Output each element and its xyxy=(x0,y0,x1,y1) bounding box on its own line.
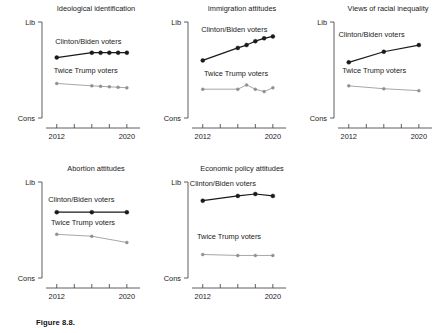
data-point xyxy=(55,233,58,236)
y-axis-line xyxy=(38,182,42,278)
y-axis-top-label: Lib xyxy=(25,178,35,187)
series-label: Clinton/Biden voters xyxy=(338,30,404,39)
data-point xyxy=(271,254,274,257)
data-point xyxy=(245,83,248,86)
series-label: Twice Trump voters xyxy=(342,66,406,75)
data-point xyxy=(107,51,111,55)
data-point xyxy=(55,210,59,214)
y-axis-bottom-label: Cons xyxy=(18,114,36,123)
panel-title: Views of racial inequality xyxy=(348,4,429,13)
data-point xyxy=(55,56,59,60)
data-point xyxy=(201,88,204,91)
y-axis-bottom-label: Cons xyxy=(18,274,36,283)
panel-svg-1: Immigration attitudesLibCons20122020Clin… xyxy=(146,0,292,152)
panel-title: Economic policy attitudes xyxy=(200,164,284,173)
data-point xyxy=(125,51,129,55)
series-label: Twice Trump voters xyxy=(54,66,118,75)
data-point xyxy=(236,46,240,50)
data-point xyxy=(236,194,240,198)
data-point xyxy=(382,50,386,54)
y-axis-top-label: Lib xyxy=(25,18,35,27)
data-point xyxy=(90,235,93,238)
y-axis-line xyxy=(184,182,188,278)
y-axis-line xyxy=(330,22,334,118)
figure-caption: Figure 8.8. xyxy=(36,318,75,327)
series-label: Clinton/Biden voters xyxy=(190,179,256,188)
data-point xyxy=(253,39,257,43)
y-axis-top-label: Lib xyxy=(171,18,181,27)
panel-views-of-racial-inequality: Views of racial inequalityLibCons2012202… xyxy=(292,0,438,152)
panel-svg-2: Views of racial inequalityLibCons2012202… xyxy=(292,0,438,152)
x-axis-tick-label: 2012 xyxy=(195,132,211,141)
data-point xyxy=(263,90,266,93)
panel-svg-4: Economic policy attitudesLibCons20122020… xyxy=(146,160,292,312)
data-point xyxy=(347,60,351,64)
data-point xyxy=(271,86,274,89)
x-axis-tick-label: 2012 xyxy=(49,292,65,301)
panel-title: Immigration attitudes xyxy=(208,4,277,13)
data-point xyxy=(90,84,93,87)
x-axis-tick-label: 2020 xyxy=(119,132,135,141)
y-axis-top-label: Lib xyxy=(171,178,181,187)
y-axis-bottom-label: Cons xyxy=(164,274,182,283)
panel-economic-policy-attitudes: Economic policy attitudesLibCons20122020… xyxy=(146,160,292,312)
data-point xyxy=(271,34,275,38)
series-label: Clinton/Biden voters xyxy=(201,25,267,34)
data-point xyxy=(125,210,129,214)
data-point xyxy=(254,88,257,91)
data-point xyxy=(236,88,239,91)
panel-svg-0: Ideological identificationLibCons2012202… xyxy=(0,0,146,152)
x-axis-tick-label: 2012 xyxy=(341,132,357,141)
x-axis-tick-label: 2012 xyxy=(195,292,211,301)
data-point xyxy=(245,43,249,47)
figure-8-8: Ideological identificationLibCons2012202… xyxy=(0,0,438,333)
data-point xyxy=(417,89,420,92)
data-point xyxy=(262,36,266,40)
panel-title: Abortion attitudes xyxy=(67,164,125,173)
y-axis-bottom-label: Cons xyxy=(310,114,328,123)
panel-immigration-attitudes: Immigration attitudesLibCons20122020Clin… xyxy=(146,0,292,152)
series-label: Clinton/Biden voters xyxy=(48,195,114,204)
data-point xyxy=(382,87,385,90)
series-label: Twice Trump voters xyxy=(51,218,115,227)
panel-abortion-attitudes: Abortion attitudesLibCons20122020Clinton… xyxy=(0,160,146,312)
x-axis-tick-label: 2020 xyxy=(265,292,281,301)
data-point xyxy=(253,192,257,196)
series-label: Twice Trump voters xyxy=(204,69,268,78)
data-point xyxy=(55,82,58,85)
series-label: Clinton/Biden voters xyxy=(55,37,121,46)
x-axis-tick-label: 2020 xyxy=(119,292,135,301)
data-point xyxy=(99,51,103,55)
y-axis-line xyxy=(38,22,42,118)
data-point xyxy=(125,86,128,89)
data-point xyxy=(201,58,205,62)
y-axis-line xyxy=(184,22,188,118)
data-point xyxy=(201,199,205,203)
data-point xyxy=(108,85,111,88)
x-axis-tick-label: 2012 xyxy=(49,132,65,141)
data-point xyxy=(99,85,102,88)
data-point xyxy=(201,253,204,256)
y-axis-bottom-label: Cons xyxy=(164,114,182,123)
data-point xyxy=(271,194,275,198)
x-axis-tick-label: 2020 xyxy=(265,132,281,141)
panel-svg-3: Abortion attitudesLibCons20122020Clinton… xyxy=(0,160,146,312)
data-point xyxy=(254,254,257,257)
series-label: Twice Trump voters xyxy=(197,232,261,241)
data-point xyxy=(90,51,94,55)
x-axis-tick-label: 2020 xyxy=(411,132,427,141)
y-axis-top-label: Lib xyxy=(317,18,327,27)
panel-title: Ideological identification xyxy=(57,4,135,13)
data-point xyxy=(417,43,421,47)
data-point xyxy=(347,84,350,87)
data-point xyxy=(116,51,120,55)
panel-ideological-identification: Ideological identificationLibCons2012202… xyxy=(0,0,146,152)
data-point xyxy=(90,210,94,214)
data-point xyxy=(117,86,120,89)
data-point xyxy=(236,254,239,257)
data-point xyxy=(125,241,128,244)
